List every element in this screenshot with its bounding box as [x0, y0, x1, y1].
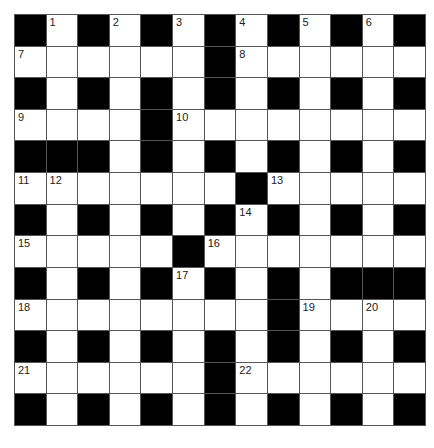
letter-cell[interactable]	[47, 363, 78, 394]
letter-cell[interactable]	[47, 394, 78, 425]
letter-cell[interactable]	[78, 173, 109, 204]
letter-cell[interactable]: 21	[15, 363, 46, 394]
letter-cell[interactable]	[47, 205, 78, 236]
letter-cell[interactable]	[141, 173, 172, 204]
letter-cell[interactable]	[141, 363, 172, 394]
letter-cell[interactable]	[173, 363, 204, 394]
letter-cell[interactable]	[47, 110, 78, 141]
letter-cell[interactable]	[110, 110, 141, 141]
letter-cell[interactable]: 20	[363, 300, 394, 331]
letter-cell[interactable]	[236, 394, 267, 425]
letter-cell[interactable]	[110, 268, 141, 299]
letter-cell[interactable]	[173, 47, 204, 78]
letter-cell[interactable]	[173, 141, 204, 172]
letter-cell[interactable]	[300, 363, 331, 394]
letter-cell[interactable]: 22	[236, 363, 267, 394]
letter-cell[interactable]	[363, 394, 394, 425]
letter-cell[interactable]	[268, 110, 299, 141]
letter-cell[interactable]	[300, 236, 331, 267]
letter-cell[interactable]: 14	[236, 205, 267, 236]
letter-cell[interactable]	[300, 110, 331, 141]
letter-cell[interactable]	[78, 300, 109, 331]
letter-cell[interactable]	[300, 78, 331, 109]
letter-cell[interactable]	[363, 236, 394, 267]
letter-cell[interactable]	[300, 141, 331, 172]
letter-cell[interactable]	[236, 268, 267, 299]
letter-cell[interactable]	[394, 173, 425, 204]
letter-cell[interactable]	[331, 47, 362, 78]
letter-cell[interactable]	[300, 268, 331, 299]
letter-cell[interactable]	[110, 173, 141, 204]
letter-cell[interactable]	[205, 110, 236, 141]
letter-cell[interactable]: 17	[173, 268, 204, 299]
letter-cell[interactable]	[173, 331, 204, 362]
letter-cell[interactable]	[78, 47, 109, 78]
letter-cell[interactable]	[205, 173, 236, 204]
letter-cell[interactable]	[110, 363, 141, 394]
letter-cell[interactable]	[236, 236, 267, 267]
letter-cell[interactable]	[268, 363, 299, 394]
letter-cell[interactable]	[363, 173, 394, 204]
letter-cell[interactable]	[394, 236, 425, 267]
letter-cell[interactable]	[141, 47, 172, 78]
letter-cell[interactable]	[394, 300, 425, 331]
letter-cell[interactable]	[331, 110, 362, 141]
letter-cell[interactable]	[236, 110, 267, 141]
letter-cell[interactable]	[236, 141, 267, 172]
letter-cell[interactable]	[363, 363, 394, 394]
letter-cell[interactable]	[110, 394, 141, 425]
letter-cell[interactable]	[236, 300, 267, 331]
letter-cell[interactable]	[331, 300, 362, 331]
letter-cell[interactable]	[300, 394, 331, 425]
letter-cell[interactable]	[110, 47, 141, 78]
letter-cell[interactable]	[331, 173, 362, 204]
letter-cell[interactable]	[173, 78, 204, 109]
letter-cell[interactable]	[300, 173, 331, 204]
letter-cell[interactable]: 15	[15, 236, 46, 267]
letter-cell[interactable]	[78, 110, 109, 141]
letter-cell[interactable]	[394, 47, 425, 78]
letter-cell[interactable]: 4	[236, 15, 267, 46]
letter-cell[interactable]: 16	[205, 236, 236, 267]
letter-cell[interactable]	[78, 363, 109, 394]
letter-cell[interactable]	[363, 110, 394, 141]
letter-cell[interactable]	[173, 300, 204, 331]
letter-cell[interactable]: 8	[236, 47, 267, 78]
letter-cell[interactable]: 13	[268, 173, 299, 204]
letter-cell[interactable]	[394, 363, 425, 394]
letter-cell[interactable]	[363, 141, 394, 172]
letter-cell[interactable]	[110, 331, 141, 362]
letter-cell[interactable]: 19	[300, 300, 331, 331]
letter-cell[interactable]	[141, 236, 172, 267]
letter-cell[interactable]	[110, 300, 141, 331]
letter-cell[interactable]	[331, 236, 362, 267]
letter-cell[interactable]	[110, 141, 141, 172]
letter-cell[interactable]	[110, 205, 141, 236]
letter-cell[interactable]: 5	[300, 15, 331, 46]
letter-cell[interactable]	[268, 47, 299, 78]
letter-cell[interactable]	[205, 300, 236, 331]
letter-cell[interactable]	[363, 78, 394, 109]
letter-cell[interactable]	[47, 331, 78, 362]
letter-cell[interactable]: 1	[47, 15, 78, 46]
letter-cell[interactable]	[268, 236, 299, 267]
letter-cell[interactable]	[300, 205, 331, 236]
letter-cell[interactable]	[300, 331, 331, 362]
letter-cell[interactable]	[47, 78, 78, 109]
letter-cell[interactable]	[363, 47, 394, 78]
letter-cell[interactable]: 2	[110, 15, 141, 46]
letter-cell[interactable]: 9	[15, 110, 46, 141]
letter-cell[interactable]	[173, 394, 204, 425]
letter-cell[interactable]	[394, 110, 425, 141]
letter-cell[interactable]: 3	[173, 15, 204, 46]
letter-cell[interactable]	[47, 268, 78, 299]
letter-cell[interactable]	[331, 363, 362, 394]
letter-cell[interactable]	[47, 236, 78, 267]
letter-cell[interactable]	[141, 300, 172, 331]
letter-cell[interactable]	[47, 300, 78, 331]
letter-cell[interactable]: 10	[173, 110, 204, 141]
letter-cell[interactable]	[110, 78, 141, 109]
letter-cell[interactable]	[47, 47, 78, 78]
letter-cell[interactable]: 12	[47, 173, 78, 204]
letter-cell[interactable]	[300, 47, 331, 78]
